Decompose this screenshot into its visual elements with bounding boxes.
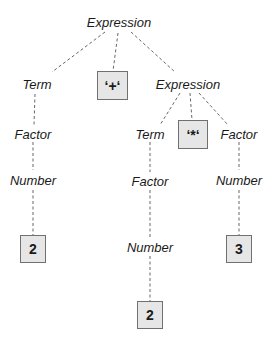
node-number-mid: Number [127, 240, 173, 255]
edge-root-plus [113, 33, 118, 71]
node-factor-right: Factor [221, 127, 258, 142]
edge-expression-star [190, 93, 192, 120]
edge-expression-term [160, 93, 180, 125]
edge-root-term [52, 32, 105, 72]
leaf-number-2-left: 2 [20, 235, 46, 263]
leaf-number-2-mid-text: 2 [146, 307, 154, 323]
leaf-plus-operator: ‘+‘ [97, 71, 128, 100]
edge-term-factor-left [34, 94, 35, 125]
node-expression-right: Expression [156, 77, 220, 92]
leaf-plus-text: ‘+‘ [105, 78, 121, 94]
edge-root-expression [131, 32, 175, 72]
leaf-number-2-left-text: 2 [29, 241, 37, 257]
node-factor-mid: Factor [132, 174, 169, 189]
leaf-number-3-text: 3 [235, 241, 243, 257]
leaf-star-text: ‘*‘ [186, 127, 199, 143]
node-factor-left: Factor [15, 127, 52, 142]
parse-tree-diagram: Expression Term Expression Factor Term F… [0, 0, 272, 345]
leaf-star-operator: ‘*‘ [178, 120, 208, 149]
node-number-right: Number [216, 173, 262, 188]
node-number-left: Number [10, 173, 56, 188]
leaf-number-2-mid: 2 [137, 301, 163, 329]
node-term-left: Term [22, 77, 51, 92]
leaf-number-3: 3 [226, 235, 252, 263]
node-term-mid: Term [135, 127, 164, 142]
node-root-expression: Expression [87, 15, 151, 30]
